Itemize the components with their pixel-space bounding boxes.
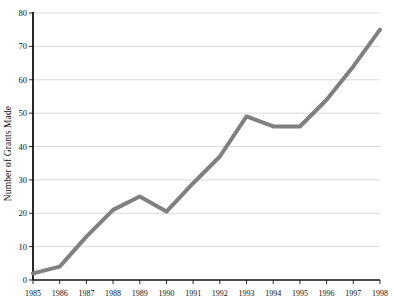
data-line-number-of-grants-made (33, 30, 380, 274)
data-series-group (33, 30, 380, 274)
gridlines (33, 13, 380, 247)
plot-area (0, 0, 394, 307)
line-chart: Number of Grants Made 01020304050607080 … (0, 0, 394, 307)
